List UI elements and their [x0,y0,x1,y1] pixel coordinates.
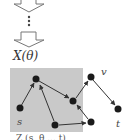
node-label-s: s [17,117,22,127]
node-v [88,74,95,81]
ellipsis-dots-icon [28,16,30,26]
node-s [17,105,24,112]
node-b [70,98,77,105]
down-arrow-icon [14,0,44,12]
node-label-v: v [101,67,107,77]
node-c [52,122,59,129]
node-d [88,119,95,126]
down-arrow-icon [14,32,44,47]
figure-caption: Z (s, θ ... t) [16,133,66,140]
node-a [33,76,40,83]
function-label: X(θ) [13,50,38,62]
node-t [115,106,122,113]
node-label-t: t [116,119,120,129]
